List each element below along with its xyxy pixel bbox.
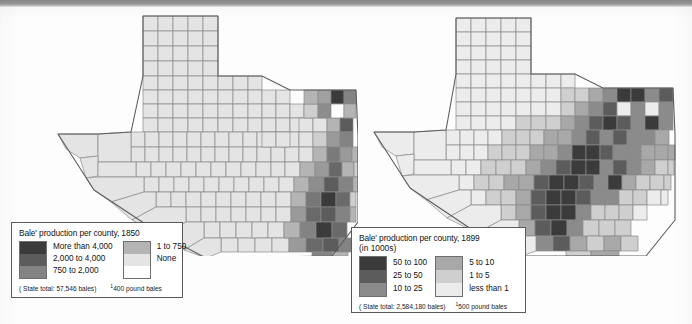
legend-1899-footer: ( State total: 2,584,180 bales) 1500 pou… [359, 301, 525, 310]
legend-1850-state-total: ( State total: 57,546 bales) [19, 285, 96, 292]
legend-1850-footer: ( State total: 57,546 bales) 1400 pound … [19, 283, 182, 292]
legend-swatch-50-to-100 [360, 257, 386, 270]
footnote-text-1899: 500 pound bales [458, 303, 507, 310]
legend-1899-labels-2: 5 to 10 1 to 5 less than 1 [469, 256, 509, 297]
legend-1850-body: More than 4,000 2,000 to 4,000 750 to 2,… [19, 241, 182, 279]
legend-label-10-to-25: 10 to 25 [393, 282, 427, 295]
legend-1899-swatches-1 [359, 256, 387, 297]
texas-map-1899-svg [356, 6, 688, 256]
map-1850 [36, 6, 358, 256]
footnote-text-1850: 400 pound bales [113, 285, 162, 292]
legend-1899-swatches-2 [435, 256, 463, 297]
legend-1899-footnote: 1500 pound bales [456, 301, 508, 310]
legend-label-none: None [157, 253, 187, 265]
legend-1899-state-total: ( State total: 2,584,180 bales) [359, 303, 446, 310]
legend-1850-title: Bale' production per county, 1850 [19, 228, 182, 238]
legend-swatch-more-than-4000 [20, 242, 46, 254]
legend-1899-column-2: 5 to 10 1 to 5 less than 1 [435, 256, 509, 297]
legend-1850-column-2: 1 to 750 None [123, 241, 187, 279]
legend-label-50-to-100: 50 to 100 [393, 256, 427, 269]
legend-label-5-to-10: 5 to 10 [469, 256, 509, 269]
legend-1850-column-1: More than 4,000 2,000 to 4,000 750 to 2,… [19, 241, 113, 279]
county-layer-1850 [58, 16, 358, 256]
legend-swatch-5-to-10 [436, 257, 462, 270]
legend-1850-footnote: 1400 pound bales [110, 283, 162, 292]
legend-swatch-less-than-1 [436, 283, 462, 296]
legend-1899-subtitle: (in 1000s) [359, 243, 525, 253]
legend-1899-title: Bale' production per county, 1899 [359, 233, 525, 243]
legend-swatch-1-to-750 [124, 242, 150, 254]
legend-label-750-to-2000: 750 to 2,000 [53, 265, 113, 277]
legend-swatch-25-to-50 [360, 270, 386, 283]
legend-label-less-than-1: less than 1 [469, 282, 509, 295]
legend-label-25-to-50: 25 to 50 [393, 269, 427, 282]
legend-swatch-10-to-25 [360, 283, 386, 296]
legend-1850-swatches-2 [123, 241, 151, 279]
legend-1899-body: 50 to 100 25 to 50 10 to 25 5 to 10 1 to… [359, 256, 525, 297]
legend-swatch-2000-to-4000 [20, 254, 46, 266]
legend-1850-swatches-1 [19, 241, 47, 279]
legend-1850-labels-1: More than 4,000 2,000 to 4,000 750 to 2,… [53, 241, 113, 279]
legend-1850: Bale' production per county, 1850 More t… [11, 222, 183, 298]
legend-swatch-none [124, 254, 150, 266]
legend-1899-labels-1: 50 to 100 25 to 50 10 to 25 [393, 256, 427, 297]
legend-swatch-1-to-5 [436, 270, 462, 283]
legend-label-1-to-750: 1 to 750 [157, 241, 187, 253]
legend-label-1-to-5: 1 to 5 [469, 269, 509, 282]
legend-label-2000-to-4000: 2,000 to 4,000 [53, 253, 113, 265]
county-layer-1899 [374, 18, 675, 256]
legend-swatch-750-to-2000 [20, 266, 46, 278]
texas-map-1850-svg [36, 6, 358, 256]
legend-1899-column-1: 50 to 100 25 to 50 10 to 25 [359, 256, 427, 297]
map-1899 [356, 6, 688, 256]
legend-label-more-than-4000: More than 4,000 [53, 241, 113, 253]
legend-1899: Bale' production per county, 1899 (in 10… [351, 227, 526, 313]
legend-1850-labels-2: 1 to 750 None [157, 241, 187, 279]
